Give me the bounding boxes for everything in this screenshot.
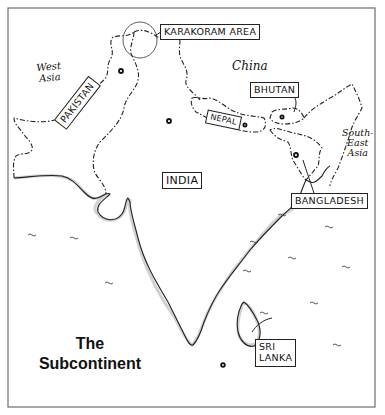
border-bhutan [270,108,304,124]
sri-lanka-leader [252,318,272,332]
city-thimphu [280,115,283,118]
label-bhutan: BHUTAN [250,82,299,98]
label-sri-lanka: SRI LANKA [255,339,296,367]
label-west-asia: West Asia [36,61,63,84]
border-pakistan-india [93,32,138,194]
label-india: INDIA [162,172,202,189]
border-india-china-west [134,30,200,100]
label-bangladesh: BANGLADESH [291,193,368,209]
city-kathmandu [243,123,246,126]
city-colombo [221,363,225,367]
city-delhi [167,119,171,123]
karakoram-circle [123,22,157,58]
label-karakoram-area: KARAKORAM AREA [160,24,260,40]
label-china: China [232,60,268,73]
city-islamabad [119,69,123,73]
sea-waves [28,214,350,346]
city-dhaka [294,153,298,157]
label-southeast-asia: South- East Asia [342,128,374,158]
map-title: The Subcontinent [35,334,145,374]
